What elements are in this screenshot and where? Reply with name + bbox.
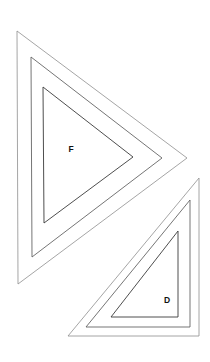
triangles-figure: F D (0, 0, 210, 362)
figure-d-outer-triangle (68, 178, 199, 336)
figure-f-middle-triangle (31, 57, 162, 257)
figure-d-group: D (68, 178, 199, 336)
figure-f-label: F (68, 144, 73, 154)
figure-f-group: F (17, 31, 187, 284)
figure-d-middle-triangle (86, 200, 190, 327)
figure-d-label: D (164, 295, 170, 305)
diagram-canvas: F D (0, 0, 210, 362)
